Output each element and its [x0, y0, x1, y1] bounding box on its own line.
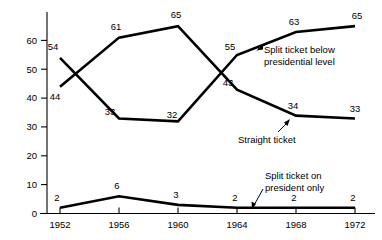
annotation-straight-ticket-line1: Straight ticket	[238, 134, 296, 145]
point-label-splitpres-1960: 3	[173, 189, 178, 200]
point-label-splitbelow-1960: 32	[167, 109, 178, 120]
point-label-splitbelow-1956: 33	[105, 106, 116, 117]
annotation-split-on-president-only: Split ticket on president only	[252, 170, 325, 209]
y-tick-label-50: 50	[26, 64, 37, 75]
x-axis-tick-labels: 1952 1956 1960 1964 1968 1972	[49, 219, 365, 230]
point-label-splitpres-1972: 2	[350, 192, 355, 203]
x-tick-label-1956: 1956	[108, 219, 129, 230]
y-tick-label-0: 0	[32, 208, 37, 219]
x-tick-label-1960: 1960	[167, 219, 188, 230]
point-label-splitbelow-1964: 55	[225, 41, 236, 52]
annotation-split-below-presidential: Split ticket below presidential level	[256, 43, 335, 67]
y-tick-label-20: 20	[26, 150, 37, 161]
series-line-split-on-president-only	[60, 196, 355, 208]
chart-container: 0 10 20 30 40 50 60 1952 1956 1960 1964 …	[0, 0, 382, 240]
point-label-splitbelow-1968: 63	[289, 16, 300, 27]
y-axis-ticks	[41, 40, 47, 213]
point-label-straight-1964: 43	[223, 77, 234, 88]
point-label-splitpres-1968: 2	[291, 192, 296, 203]
point-label-splitpres-1952: 2	[54, 192, 59, 203]
y-tick-label-30: 30	[26, 121, 37, 132]
x-tick-label-1968: 1968	[285, 219, 306, 230]
point-label-splitpres-1964: 2	[232, 192, 237, 203]
annotation-split-below-line2: presidential level	[264, 56, 335, 67]
x-tick-label-1964: 1964	[226, 219, 247, 230]
annotation-split-below-line1: Split ticket below	[264, 44, 335, 55]
x-tick-label-1952: 1952	[49, 219, 70, 230]
point-label-splitbelow-1952: 54	[48, 41, 59, 52]
y-axis-tick-labels: 0 10 20 30 40 50 60	[26, 35, 37, 219]
point-label-splitpres-1956: 6	[114, 180, 119, 191]
point-label-straight-1960: 65	[171, 9, 182, 20]
point-label-straight-1956: 61	[111, 21, 122, 32]
y-tick-label-40: 40	[26, 92, 37, 103]
annotation-straight-ticket: Straight ticket	[238, 119, 296, 145]
point-label-splitbelow-1972: 65	[352, 10, 363, 21]
annotation-splitpres-line2: president only	[265, 182, 324, 193]
y-tick-label-60: 60	[26, 35, 37, 46]
point-label-straight-1968: 34	[288, 100, 299, 111]
point-label-straight-1952: 44	[50, 91, 61, 102]
x-tick-label-1972: 1972	[344, 219, 365, 230]
point-label-straight-1972: 33	[350, 103, 361, 114]
y-tick-label-10: 10	[26, 179, 37, 190]
line-chart: 0 10 20 30 40 50 60 1952 1956 1960 1964 …	[0, 0, 382, 240]
annotation-splitpres-line1: Split ticket on	[265, 170, 322, 181]
